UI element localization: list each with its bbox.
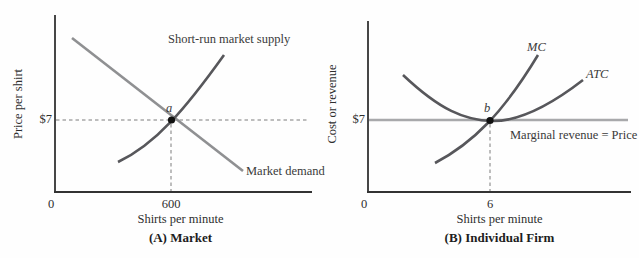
panel-b-x-axis-label: Shirts per minute [368,212,631,227]
supply-curve-label: Short-run market supply [168,33,290,47]
demand-curve-label: Market demand [246,165,325,179]
point-b-label: b [484,102,490,116]
atc-curve [403,75,583,121]
panel-b-individual-firm: Cost or revenue $7 MC ATC b Marginal rev… [320,0,639,258]
panel-b-origin-tick: 0 [361,197,367,212]
panel-a-price-tick: $7 [12,112,52,127]
mc-curve-label: MC [527,41,546,55]
panel-b-title: (B) Individual Firm [368,230,631,246]
atc-curve-label: ATC [586,68,608,82]
panel-a-x-axis-label: Shirts per minute [53,212,308,227]
two-panel-economics-figure: Price per shirt $7 Short-run market supp… [0,0,639,258]
panel-a-market: Price per shirt $7 Short-run market supp… [0,0,320,258]
break-even-point-b [486,117,493,124]
panel-a-title: (A) Market [53,230,308,246]
panel-b-quantity-tick: 6 [470,197,510,212]
marginal-revenue-label: Marginal revenue = Price [510,129,637,143]
panel-a-y-axis-label: Price per shirt [11,69,26,139]
panel-b-y-axis-label: Cost or revenue [325,64,340,143]
panel-a-origin-tick: 0 [48,197,54,212]
panel-b-price-tick: $7 [325,112,365,127]
panel-a-quantity-tick: 600 [151,197,191,212]
point-a-label: a [166,102,172,116]
market-demand-curve [72,38,243,171]
equilibrium-point-a [168,116,175,123]
